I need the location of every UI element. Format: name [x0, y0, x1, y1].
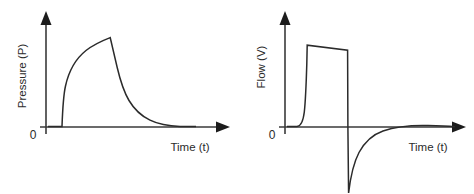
pressure-x-axis-label: Time (t): [170, 141, 209, 153]
waveform-svg: 0 Pressure (P) Time (t) 0 Flow (V) Time …: [0, 0, 474, 194]
flow-waveform-curve: [287, 45, 455, 193]
flow-origin-label: 0: [269, 128, 276, 142]
flow-y-axis-arrow-icon: [280, 11, 291, 25]
pressure-waveform-curve: [48, 38, 196, 127]
pressure-y-axis-arrow-icon: [41, 11, 52, 25]
pressure-origin-label: 0: [30, 128, 37, 142]
pressure-x-axis-arrow-icon: [216, 122, 230, 133]
flow-y-axis-label: Flow (V): [255, 45, 267, 88]
flow-chart: 0 Flow (V) Time (t): [255, 11, 466, 193]
pressure-chart: 0 Pressure (P) Time (t): [16, 11, 230, 153]
dual-waveform-figure: 0 Pressure (P) Time (t) 0 Flow (V) Time …: [0, 0, 474, 194]
pressure-y-axis-label: Pressure (P): [16, 44, 28, 109]
flow-x-axis-label: Time (t): [408, 141, 447, 153]
